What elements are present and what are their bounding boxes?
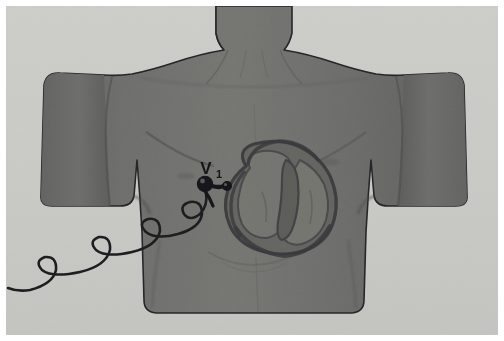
medical-illustration-figure: V 1 V1 precordial electrode placement on… [0, 0, 504, 341]
torso-illustration-svg: V 1 [0, 0, 504, 341]
film-grain-overlay [6, 6, 498, 335]
